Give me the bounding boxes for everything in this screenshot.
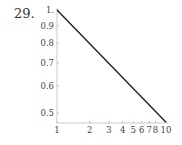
x-tick-label: 4 [120, 125, 125, 135]
y-tick-label: 0.5 [40, 108, 54, 118]
x-tick-label: 8 [153, 125, 158, 135]
y-tick-label: 1. [46, 5, 54, 15]
y-tick-label: 0.9 [40, 21, 54, 31]
x-tick-label: 6 [139, 125, 144, 135]
x-tick-label: 2 [87, 125, 92, 135]
log-log-plot: 1.0.90.80.70.60.51234567810 [0, 0, 182, 145]
y-tick-label: 0.6 [40, 81, 54, 91]
y-tick-label: 0.7 [40, 58, 54, 68]
x-tick-label: 1 [54, 125, 59, 135]
x-tick-label: 10 [161, 125, 172, 135]
data-line [57, 10, 166, 122]
y-tick-label: 0.8 [40, 38, 54, 48]
x-tick-label: 7 [146, 125, 151, 135]
x-tick-label: 5 [130, 125, 135, 135]
x-tick-label: 3 [106, 125, 111, 135]
